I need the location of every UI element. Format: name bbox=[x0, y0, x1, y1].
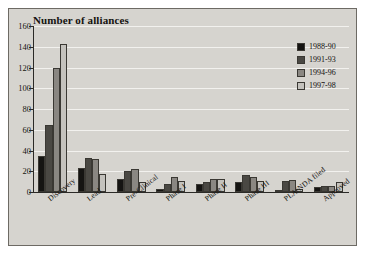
y-tick-label: 140 bbox=[1, 42, 31, 52]
y-axis-tick-labels: 020406080100120140160 bbox=[0, 26, 31, 193]
y-tick-label: 20 bbox=[1, 166, 31, 176]
y-tick-label: 0 bbox=[1, 187, 31, 197]
bar bbox=[235, 182, 242, 192]
bar-group bbox=[156, 26, 185, 192]
bar-group bbox=[78, 26, 107, 192]
legend-swatch bbox=[297, 69, 305, 77]
bar-group bbox=[235, 26, 264, 192]
bar-group bbox=[117, 26, 146, 192]
bar bbox=[85, 158, 92, 192]
bar bbox=[196, 184, 203, 192]
bar bbox=[45, 125, 52, 192]
y-tick-label: 80 bbox=[1, 104, 31, 114]
bar bbox=[78, 168, 85, 192]
chart-title: Number of alliances bbox=[33, 14, 129, 26]
legend-swatch bbox=[297, 56, 305, 64]
legend-label: 1988-90 bbox=[309, 42, 336, 51]
bar bbox=[53, 68, 60, 193]
legend-item: 1988-90 bbox=[297, 40, 336, 53]
bar-group bbox=[196, 26, 225, 192]
chart-legend: 1988-901991-931994-961997-98 bbox=[297, 40, 336, 92]
legend-item: 1991-93 bbox=[297, 53, 336, 66]
bar-group bbox=[38, 26, 67, 192]
x-axis-line bbox=[33, 192, 349, 193]
bar bbox=[124, 171, 131, 192]
legend-label: 1994-96 bbox=[309, 68, 336, 77]
legend-label: 1997-98 bbox=[309, 81, 336, 90]
chart-figure: Number of alliances 02040608010012014016… bbox=[0, 0, 366, 263]
bar bbox=[314, 187, 321, 192]
bar bbox=[242, 175, 249, 192]
legend-swatch bbox=[297, 82, 305, 90]
y-tick-label: 60 bbox=[1, 125, 31, 135]
legend-swatch bbox=[297, 43, 305, 51]
legend-label: 1991-93 bbox=[309, 55, 336, 64]
y-tick-label: 120 bbox=[1, 63, 31, 73]
legend-item: 1997-98 bbox=[297, 79, 336, 92]
bar bbox=[156, 189, 163, 192]
y-tick-label: 100 bbox=[1, 83, 31, 93]
bar bbox=[117, 179, 124, 192]
bar bbox=[60, 44, 67, 192]
legend-item: 1994-96 bbox=[297, 66, 336, 79]
y-tick-label: 160 bbox=[1, 21, 31, 31]
bar bbox=[275, 190, 282, 192]
y-tick-label: 40 bbox=[1, 146, 31, 156]
bar bbox=[38, 156, 45, 192]
